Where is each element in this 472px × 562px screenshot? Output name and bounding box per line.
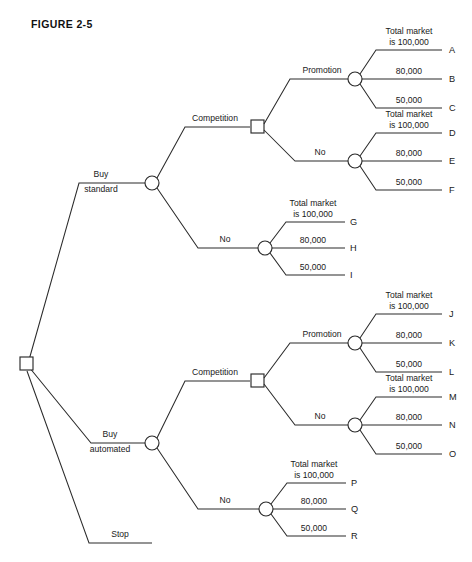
chance-node-def[interactable] — [348, 154, 362, 168]
payoff-H: 80,000 — [300, 235, 327, 245]
payoff-R: 50,000 — [301, 523, 328, 533]
edge-standard-competition — [157, 127, 250, 178]
outcome-M: M — [449, 392, 457, 402]
outcome-L: L — [449, 367, 454, 377]
outcome-N: N — [449, 420, 456, 430]
outcome-H: H — [350, 243, 357, 253]
chance-node-buy-standard[interactable] — [145, 176, 159, 190]
edge-standard-no — [157, 188, 258, 248]
label-promotion-automated: Promotion — [302, 329, 341, 339]
chance-node-mno[interactable] — [348, 418, 362, 432]
label-promotion-standard: Promotion — [302, 65, 341, 75]
outcome-O: O — [449, 449, 456, 459]
edge-competition-promotion-top — [264, 79, 348, 124]
edge-root-buy-automated — [29, 367, 145, 443]
payoff-D-line1: Total market — [386, 109, 433, 119]
payoff-A-line1: Total market — [386, 26, 433, 36]
label-no-promotion-automated: No — [315, 411, 326, 421]
outcome-G: G — [350, 217, 357, 227]
edge-root-stop — [27, 371, 152, 543]
payoff-N: 80,000 — [396, 412, 423, 422]
payoff-P-line2: is 100,000 — [294, 470, 334, 480]
payoff-B: 80,000 — [396, 66, 423, 76]
payoff-K: 80,000 — [396, 330, 423, 340]
label-buy-standard-line2: standard — [84, 184, 118, 194]
payoff-D-line2: is 100,000 — [389, 120, 429, 130]
edge-competition-no-top — [264, 130, 348, 161]
payoff-G-line1: Total market — [290, 198, 337, 208]
decision-node-competition-standard[interactable] — [251, 120, 264, 133]
outcome-P: P — [351, 478, 357, 488]
edge-automated-competition — [157, 381, 250, 438]
payoff-M-line2: is 100,000 — [389, 384, 429, 394]
payoff-C: 50,000 — [396, 95, 423, 105]
outcome-J: J — [449, 309, 454, 319]
outcome-E: E — [449, 156, 455, 166]
label-no-automated: No — [220, 495, 231, 505]
chance-node-pqr[interactable] — [259, 502, 273, 516]
payoff-F: 50,000 — [396, 177, 423, 187]
label-competition-automated: Competition — [192, 367, 238, 377]
payoff-E: 80,000 — [396, 148, 423, 158]
chance-node-abc[interactable] — [348, 72, 362, 86]
outcome-D: D — [449, 128, 456, 138]
decision-node-competition-automated[interactable] — [251, 374, 264, 387]
label-competition-standard: Competition — [192, 113, 238, 123]
outcome-B: B — [449, 74, 455, 84]
outcome-R: R — [351, 531, 358, 541]
outcome-Q: Q — [351, 504, 358, 514]
payoff-G-line2: is 100,000 — [293, 209, 333, 219]
payoff-J-line2: is 100,000 — [389, 301, 429, 311]
payoff-O: 50,000 — [396, 441, 423, 451]
label-buy-automated-line2: automated — [90, 444, 131, 454]
outcome-K: K — [449, 338, 456, 348]
outcome-F: F — [449, 185, 455, 195]
payoff-P-line1: Total market — [291, 459, 338, 469]
decision-tree-diagram: Buy standard Buy automated Stop Competit… — [0, 0, 472, 562]
edge-competition-no-bottom — [264, 384, 348, 425]
edge-root-buy-standard — [29, 183, 145, 360]
root-decision-node[interactable] — [20, 357, 33, 370]
payoff-J-line1: Total market — [386, 290, 433, 300]
payoff-I: 50,000 — [300, 262, 327, 272]
outcome-I: I — [350, 270, 353, 280]
edge-competition-promotion-bottom — [264, 343, 348, 378]
label-no-promotion-standard: No — [315, 147, 326, 157]
label-no-standard: No — [220, 234, 231, 244]
chance-node-ghi[interactable] — [258, 241, 272, 255]
payoff-L: 50,000 — [396, 359, 423, 369]
payoff-M-line1: Total market — [386, 373, 433, 383]
payoff-A-line2: is 100,000 — [389, 37, 429, 47]
edge-automated-no — [157, 448, 259, 509]
label-stop: Stop — [111, 529, 129, 539]
label-buy-standard-line1: Buy — [94, 169, 110, 179]
chance-node-buy-automated[interactable] — [145, 436, 159, 450]
chance-node-jkl[interactable] — [348, 336, 362, 350]
outcome-C: C — [449, 103, 456, 113]
payoff-Q: 80,000 — [301, 496, 328, 506]
label-buy-automated-line1: Buy — [103, 429, 119, 439]
outcome-A: A — [449, 45, 456, 55]
